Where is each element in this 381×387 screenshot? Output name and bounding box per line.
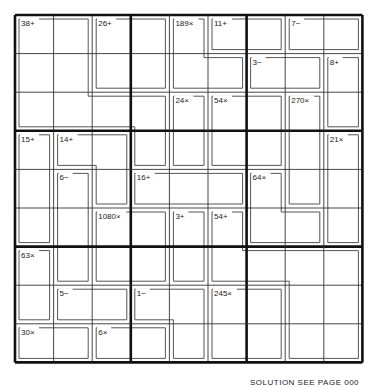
footer-note: SOLUTION SEE PAGE 000 xyxy=(250,378,359,387)
grid-cell[interactable] xyxy=(92,285,131,324)
grid-cell[interactable] xyxy=(131,247,170,286)
cage-label: 3+ xyxy=(175,212,184,221)
grid-cell[interactable] xyxy=(324,324,363,363)
grid-cell[interactable] xyxy=(247,131,286,170)
cage-label: 54+ xyxy=(214,212,228,221)
cage-label: 16+ xyxy=(137,173,151,182)
grid-cell[interactable] xyxy=(208,54,247,93)
grid-cell[interactable] xyxy=(169,169,208,208)
grid-cell[interactable] xyxy=(131,208,170,247)
grid-cell[interactable] xyxy=(208,131,247,170)
grid-cell[interactable] xyxy=(15,92,54,131)
grid-cell[interactable] xyxy=(15,285,54,324)
puzzle-grid: 38+26+189×11+7−3−8+24×54×270×15+14+21×6−… xyxy=(0,0,381,387)
grid-cell[interactable] xyxy=(92,169,131,208)
grid-cell[interactable] xyxy=(208,247,247,286)
cage-label: 54× xyxy=(214,96,228,105)
cage-label: 5− xyxy=(60,289,69,298)
grid-cell[interactable] xyxy=(169,131,208,170)
grid-cell[interactable] xyxy=(208,324,247,363)
cage-label: 15+ xyxy=(21,135,35,144)
cage-label: 270× xyxy=(291,96,309,105)
cage-label: 3− xyxy=(253,58,262,67)
cage-label: 30× xyxy=(21,328,35,337)
grid-cell[interactable] xyxy=(208,169,247,208)
grid-cell[interactable] xyxy=(15,54,54,93)
grid-cell[interactable] xyxy=(92,54,131,93)
grid-cell[interactable] xyxy=(247,208,286,247)
grid-cell[interactable] xyxy=(285,169,324,208)
grid-cell[interactable] xyxy=(285,131,324,170)
grid-cell[interactable] xyxy=(247,324,286,363)
grid-cell[interactable] xyxy=(247,92,286,131)
cage-label: 189× xyxy=(175,19,193,28)
grid-cell[interactable] xyxy=(285,208,324,247)
grid-cell[interactable] xyxy=(15,208,54,247)
grid-cell[interactable] xyxy=(54,54,93,93)
grid-cells xyxy=(15,15,362,362)
cage-label: 6− xyxy=(60,173,69,182)
grid-cell[interactable] xyxy=(131,54,170,93)
cage-label: 64× xyxy=(253,173,267,182)
grid-cell[interactable] xyxy=(92,247,131,286)
grid-cell[interactable] xyxy=(285,54,324,93)
grid-cell[interactable] xyxy=(169,54,208,93)
grid-cell[interactable] xyxy=(324,169,363,208)
cage-label: 1− xyxy=(137,289,146,298)
cage-label: 8+ xyxy=(330,58,339,67)
grid-cell[interactable] xyxy=(324,92,363,131)
grid-cell[interactable] xyxy=(169,324,208,363)
grid-cell[interactable] xyxy=(324,247,363,286)
grid-cell[interactable] xyxy=(247,247,286,286)
grid-cell[interactable] xyxy=(131,15,170,54)
grid-cell[interactable] xyxy=(92,92,131,131)
cage-label: 26+ xyxy=(98,19,112,28)
grid-cell[interactable] xyxy=(285,285,324,324)
cage-label: 24× xyxy=(175,96,189,105)
grid-cell[interactable] xyxy=(54,15,93,54)
cage-label: 6× xyxy=(98,328,107,337)
grid-cell[interactable] xyxy=(169,247,208,286)
grid-cell[interactable] xyxy=(131,92,170,131)
grid-cell[interactable] xyxy=(285,247,324,286)
cage-label: 38+ xyxy=(21,19,35,28)
cage-label: 11+ xyxy=(214,19,227,28)
grid-cell[interactable] xyxy=(324,285,363,324)
grid-cell[interactable] xyxy=(247,15,286,54)
grid-cell[interactable] xyxy=(54,247,93,286)
grid-cell[interactable] xyxy=(54,208,93,247)
grid-cell[interactable] xyxy=(131,131,170,170)
grid-cell[interactable] xyxy=(54,324,93,363)
grid-cell[interactable] xyxy=(15,169,54,208)
cage-label: 245× xyxy=(214,289,232,298)
cage-label: 1080× xyxy=(98,212,121,221)
grid-cell[interactable] xyxy=(92,131,131,170)
cage-label: 63× xyxy=(21,251,35,260)
cage-label: 21× xyxy=(330,135,344,144)
grid-cell[interactable] xyxy=(247,285,286,324)
grid-cell[interactable] xyxy=(285,324,324,363)
grid-cell[interactable] xyxy=(169,285,208,324)
grid-cell[interactable] xyxy=(131,324,170,363)
grid-cell[interactable] xyxy=(54,92,93,131)
cage-label: 14+ xyxy=(60,135,74,144)
grid-cell[interactable] xyxy=(324,208,363,247)
grid-cell[interactable] xyxy=(324,15,363,54)
cage-label: 7− xyxy=(291,19,300,28)
